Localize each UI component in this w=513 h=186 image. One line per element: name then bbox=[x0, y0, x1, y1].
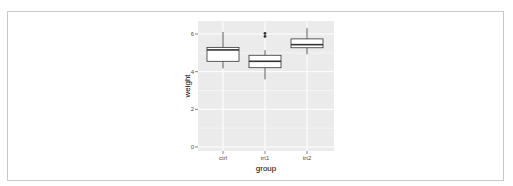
boxplot-chart: 0246 ctrltrt1trt2 group weight bbox=[0, 0, 513, 186]
y-tick-label: 6 bbox=[191, 31, 195, 37]
x-tick-label: trt2 bbox=[303, 155, 312, 161]
y-tick-label: 2 bbox=[191, 106, 195, 112]
outlier-point bbox=[264, 32, 267, 35]
x-tick-label: trt1 bbox=[261, 155, 270, 161]
box bbox=[291, 39, 323, 48]
outlier-point bbox=[264, 35, 267, 38]
x-axis: ctrltrt1trt2 bbox=[219, 151, 312, 161]
y-axis-title: weight bbox=[183, 74, 192, 99]
y-tick-label: 0 bbox=[191, 144, 195, 150]
x-tick-label: ctrl bbox=[219, 155, 227, 161]
y-tick-label: 4 bbox=[191, 69, 195, 75]
x-axis-title: group bbox=[256, 164, 277, 173]
